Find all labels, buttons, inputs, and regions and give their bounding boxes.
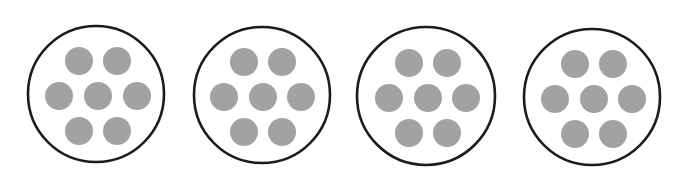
gray-dot: [580, 85, 608, 113]
circle-group-1: [28, 26, 164, 162]
gray-dot: [433, 119, 461, 147]
gray-dot: [230, 118, 258, 146]
gray-dot: [268, 48, 296, 76]
gray-dot: [561, 120, 589, 148]
gray-dot: [287, 83, 315, 111]
gray-dot: [618, 85, 646, 113]
circle-group-3: [357, 27, 495, 165]
gray-dot: [249, 83, 277, 111]
gray-dot: [210, 83, 238, 111]
gray-dot: [103, 117, 131, 145]
diagram-canvas: [0, 0, 685, 180]
gray-dot: [230, 48, 258, 76]
gray-dot: [541, 85, 569, 113]
gray-dot: [84, 82, 112, 110]
gray-dot: [433, 49, 461, 77]
gray-dot: [268, 118, 296, 146]
gray-dot: [375, 84, 403, 112]
gray-dot: [103, 47, 131, 75]
gray-dot: [414, 84, 442, 112]
gray-dot: [45, 82, 73, 110]
gray-dot: [65, 47, 93, 75]
gray-dot: [561, 50, 589, 78]
gray-dot: [395, 49, 423, 77]
circle-group-2: [194, 27, 330, 163]
gray-dot: [452, 84, 480, 112]
gray-dot: [395, 119, 423, 147]
circle-group-4: [524, 29, 660, 165]
gray-dot: [123, 82, 151, 110]
gray-dot: [599, 120, 627, 148]
gray-dot: [65, 117, 93, 145]
dot-circles-figure: [0, 0, 685, 180]
gray-dot: [599, 50, 627, 78]
